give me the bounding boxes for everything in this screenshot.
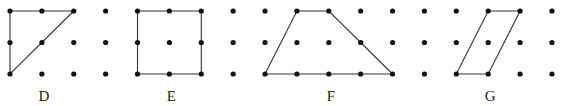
grid-dot — [71, 40, 76, 45]
grid-dot — [549, 40, 554, 45]
grid-dot — [262, 40, 267, 45]
label-d: D — [38, 88, 49, 104]
grid-dot — [167, 71, 172, 76]
grid-dot — [231, 8, 236, 13]
grid-dot — [294, 8, 299, 13]
grid-dot — [39, 40, 44, 45]
grid-dot — [549, 8, 554, 13]
grid-dot — [103, 40, 108, 45]
grid-dot — [358, 8, 363, 13]
labels-layer: D E F G — [38, 88, 495, 104]
grid-dot — [135, 40, 140, 45]
grid-dot — [358, 40, 363, 45]
grid-dot — [486, 8, 491, 13]
label-e: E — [167, 88, 176, 104]
grid-dot — [326, 40, 331, 45]
grid-dot — [71, 8, 76, 13]
grid-dot — [517, 71, 522, 76]
grid-dot — [294, 71, 299, 76]
label-g: G — [485, 88, 496, 104]
grid-dot — [199, 71, 204, 76]
grid-dot — [231, 71, 236, 76]
grid-dot — [517, 40, 522, 45]
grid-dot — [422, 71, 427, 76]
grid-dot — [390, 71, 395, 76]
grid-dot — [390, 40, 395, 45]
grid-dot — [103, 71, 108, 76]
grid-dot — [326, 71, 331, 76]
grid-dot — [231, 40, 236, 45]
grid-dot — [326, 8, 331, 13]
grid-dot — [7, 40, 12, 45]
grid-dot — [454, 40, 459, 45]
grid-dot — [103, 8, 108, 13]
grid-dot — [454, 8, 459, 13]
grid-dot — [199, 8, 204, 13]
grid-dot — [549, 71, 554, 76]
grid-dot — [390, 8, 395, 13]
grid-dot — [422, 8, 427, 13]
dot-grid-diagram: D E F G — [0, 0, 563, 106]
grid-dot — [262, 71, 267, 76]
grid-dot — [294, 40, 299, 45]
grid-dot — [262, 8, 267, 13]
grid-dot — [39, 71, 44, 76]
grid-dot — [199, 40, 204, 45]
grid-dot — [39, 8, 44, 13]
grid-dot — [135, 71, 140, 76]
grid-dot — [71, 71, 76, 76]
grid-dot — [7, 8, 12, 13]
grid-dot — [167, 40, 172, 45]
label-f: F — [327, 88, 335, 104]
grid-dot — [7, 71, 12, 76]
grid-dot — [486, 40, 491, 45]
grid-dot — [422, 40, 427, 45]
grid-dot — [135, 8, 140, 13]
grid-dot — [517, 8, 522, 13]
grid-dot — [167, 8, 172, 13]
grid-dot — [486, 71, 491, 76]
grid-dot — [358, 71, 363, 76]
grid-dot — [454, 71, 459, 76]
